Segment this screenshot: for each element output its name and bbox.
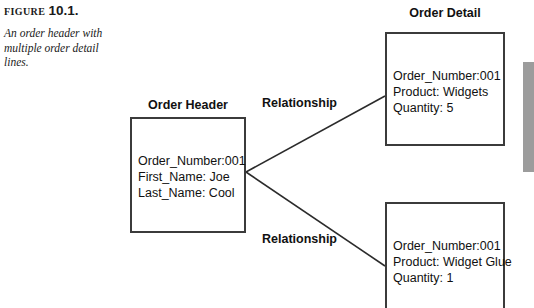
figure-page: FIGURE 10.1. An order header with multip… [0, 0, 534, 308]
entity-field: Order_Number:001 [393, 68, 501, 84]
entity-title-order-detail: Order Detail [385, 6, 505, 20]
entity-field: Product: Widgets [393, 84, 501, 100]
entity-title-order-header: Order Header [130, 98, 246, 112]
entity-fields-order-header: Order_Number:001 First_Name: Joe Last_Na… [138, 153, 246, 201]
entity-field: Quantity: 5 [393, 100, 501, 116]
entity-field: Last_Name: Cool [138, 185, 246, 201]
page-edge-gray-bar [523, 62, 534, 172]
relationship-label-bottom: Relationship [262, 232, 337, 246]
relationship-label-top: Relationship [262, 96, 337, 110]
connector-line-bottom [246, 172, 385, 266]
figure-caption-text: An order header with multiple order deta… [4, 26, 116, 70]
entity-field: Order_Number:001 [393, 238, 512, 254]
entity-field: Order_Number:001 [138, 153, 246, 169]
figure-label: FIGURE 10.1. [4, 3, 116, 19]
entity-fields-order-detail-2: Order_Number:001 Product: Widget Glue Qu… [393, 238, 512, 286]
entity-field: Quantity: 1 [393, 270, 512, 286]
entity-field: Product: Widget Glue [393, 254, 512, 270]
entity-field: First_Name: Joe [138, 169, 246, 185]
entity-fields-order-detail-1: Order_Number:001 Product: Widgets Quanti… [393, 68, 501, 116]
figure-caption-block: FIGURE 10.1. An order header with multip… [4, 3, 116, 70]
figure-label-prefix: FIGURE [4, 6, 45, 17]
figure-label-number: 10.1. [49, 3, 79, 18]
